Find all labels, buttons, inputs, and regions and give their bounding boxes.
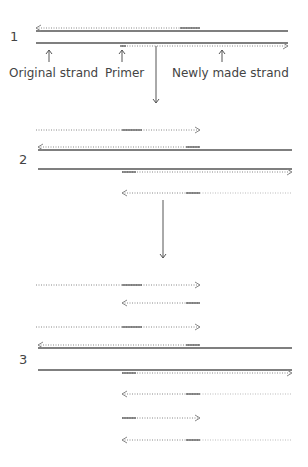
label-original-strand: Original strand (9, 66, 98, 80)
arrowhead-right-icon (195, 282, 200, 288)
label-primer: Primer (105, 66, 144, 80)
step-number-1: 1 (10, 29, 18, 44)
label-newly-made-strand: Newly made strand (172, 66, 289, 80)
step-number-2: 2 (19, 152, 27, 167)
arrowhead-right-icon (195, 127, 200, 133)
arrowhead-right-icon (195, 324, 200, 330)
step-number-3: 3 (19, 352, 27, 367)
